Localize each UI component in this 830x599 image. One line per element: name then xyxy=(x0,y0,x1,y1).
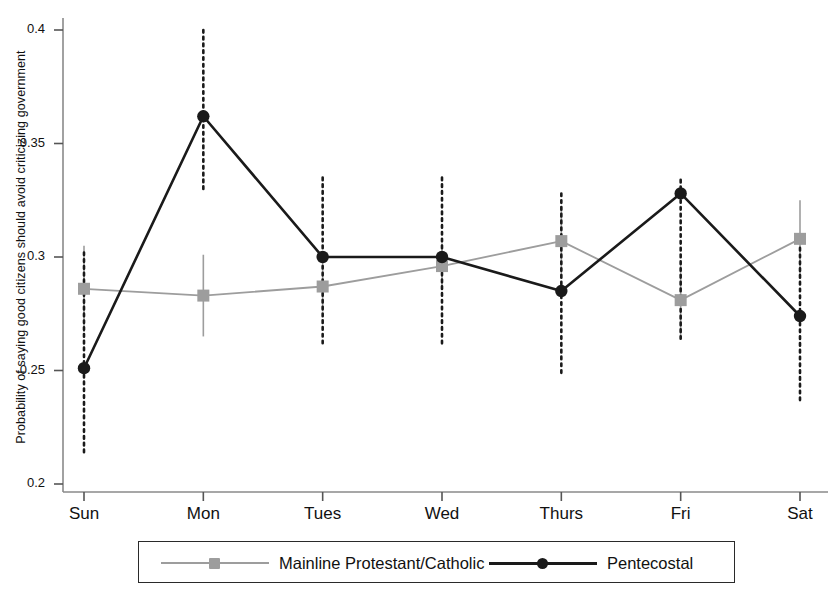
y-tick-label: 0.3 xyxy=(5,248,45,263)
y-tick-marks xyxy=(54,30,63,484)
chart-figure: Probability of saying good citizens shou… xyxy=(0,0,830,599)
legend-swatch-mainline xyxy=(161,553,269,573)
x-tick-label: Fri xyxy=(626,504,736,524)
legend-label-pentecostal: Pentecostal xyxy=(607,554,693,573)
y-tick-label: 0.35 xyxy=(5,135,45,150)
error-bars xyxy=(84,30,800,454)
x-tick-label: Mon xyxy=(148,504,258,524)
y-tick-label: 0.2 xyxy=(5,475,45,490)
x-tick-label: Tues xyxy=(268,504,378,524)
x-tick-label: Thurs xyxy=(506,504,616,524)
y-tick-label: 0.25 xyxy=(5,362,45,377)
x-tick-label: Sat xyxy=(745,504,830,524)
chart-legend: Mainline Protestant/Catholic Pentecostal xyxy=(138,541,735,583)
legend-swatch-pentecostal xyxy=(489,553,597,573)
legend-entry-1: Pentecostal xyxy=(489,542,693,584)
legend-label-mainline: Mainline Protestant/Catholic xyxy=(279,554,484,573)
y-tick-label: 0.4 xyxy=(5,21,45,36)
x-tick-label: Sun xyxy=(29,504,139,524)
legend-marker-square-icon xyxy=(209,558,220,569)
legend-marker-circle-icon xyxy=(537,558,548,569)
legend-entry-0: Mainline Protestant/Catholic xyxy=(161,542,484,584)
x-tick-label: Wed xyxy=(387,504,497,524)
x-tick-marks xyxy=(84,492,800,501)
